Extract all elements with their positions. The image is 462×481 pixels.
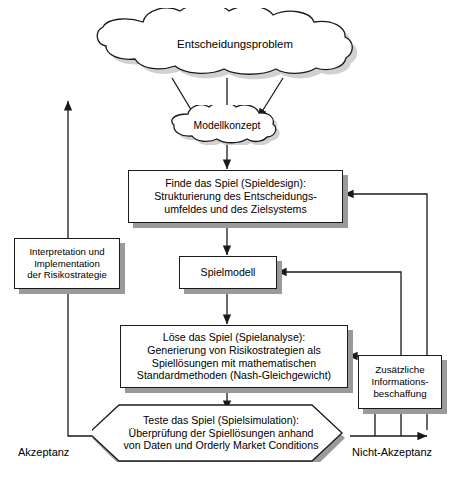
node-zusaetzliche-label: Zusätzliche Informations- beschaffung [359, 364, 441, 400]
node-entscheidungsproblem[interactable]: Entscheidungsproblem [96, 8, 374, 80]
node-finde-das-spiel[interactable]: Finde das Spiel (Spieldesign): Strukturi… [128, 170, 343, 223]
node-interpretation-implementation[interactable]: Interpretation und Implementation der Ri… [14, 238, 120, 289]
edge-label-nicht-akzeptanz: Nicht-Akzeptanz [352, 446, 432, 458]
node-teste-das-spiel[interactable]: Teste das Spiel (Spielsimulation): Überp… [92, 404, 350, 462]
node-finde-das-spiel-label: Finde das Spiel (Spieldesign): Strukturi… [129, 177, 342, 216]
node-modellkonzept[interactable]: Modellkonzept [168, 105, 286, 145]
node-spielmodell-label: Spielmodell [180, 266, 276, 279]
flowchart-canvas: Entscheidungsproblem Modellkonzept Finde… [0, 0, 462, 481]
node-spielmodell[interactable]: Spielmodell [179, 256, 277, 289]
node-interpretation-label: Interpretation und Implementation der Ri… [15, 246, 119, 281]
node-teste-das-spiel-label: Teste das Spiel (Spielsimulation): Überp… [92, 404, 350, 462]
node-zusaetzliche-informationsbeschaffung[interactable]: Zusätzliche Informations- beschaffung [358, 355, 442, 409]
node-loese-das-spiel[interactable]: Löse das Spiel (Spielanalyse): Generieru… [120, 325, 348, 388]
node-loese-das-spiel-label: Löse das Spiel (Spielanalyse): Generieru… [121, 331, 347, 383]
edge-label-akzeptanz: Akzeptanz [18, 446, 69, 458]
